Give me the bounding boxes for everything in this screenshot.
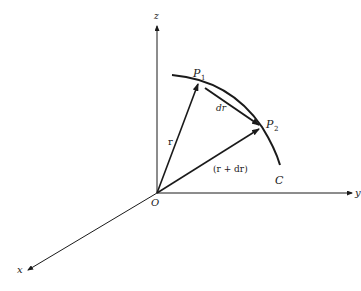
svg-text:2: 2 (274, 125, 278, 133)
origin-label: O (151, 197, 159, 208)
y-axis-label: y (354, 187, 361, 198)
x-axis-label: x (17, 264, 23, 275)
vector-dr (205, 88, 259, 125)
vector-dr-label: dr (216, 103, 227, 113)
svg-text:P: P (192, 67, 201, 80)
point-p2-label: P 2 (265, 118, 278, 133)
svg-text:1: 1 (201, 74, 205, 82)
z-axis-label: z (153, 11, 159, 21)
vector-diagram: z y x O C P 1 P 2 r dr (r + dr) (0, 0, 361, 291)
svg-text:P: P (265, 118, 274, 131)
vector-r-plus-dr-label: (r + dr) (213, 164, 248, 174)
curve-c (172, 75, 280, 165)
point-p1-label: P 1 (192, 67, 205, 82)
x-axis (28, 193, 157, 270)
vector-r-label: r (168, 136, 173, 147)
vector-r (157, 84, 198, 193)
curve-label: C (275, 174, 284, 187)
